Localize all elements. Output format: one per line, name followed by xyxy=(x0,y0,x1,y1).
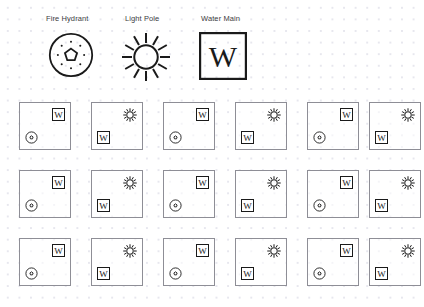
fire-hydrant-icon xyxy=(169,131,182,144)
fire-hydrant-icon xyxy=(25,199,38,212)
symbol-card[interactable]: W xyxy=(307,170,359,218)
light-pole-icon xyxy=(401,244,415,258)
svg-text:W: W xyxy=(342,178,351,188)
light-pole-icon xyxy=(121,32,171,82)
water-main-icon: W xyxy=(52,176,65,189)
svg-text:W: W xyxy=(342,110,351,120)
symbol-card[interactable]: W xyxy=(91,102,143,150)
symbol-card[interactable]: W xyxy=(235,102,287,150)
legend-item-light-pole: Light Pole xyxy=(125,14,159,23)
symbol-card[interactable]: W xyxy=(19,238,71,286)
svg-text:W: W xyxy=(198,246,207,256)
svg-text:W: W xyxy=(243,133,252,143)
light-pole-icon xyxy=(123,244,137,258)
symbol-card[interactable]: W xyxy=(235,170,287,218)
water-main-icon: W xyxy=(241,267,254,280)
svg-text:W: W xyxy=(54,110,63,120)
drawing-canvas: Fire Hydrant Light Pole Water Main W W W… xyxy=(0,0,424,307)
svg-text:W: W xyxy=(99,201,108,211)
legend-item-label: Fire Hydrant xyxy=(46,14,88,23)
water-main-icon: W xyxy=(97,199,110,212)
symbol-card[interactable]: W xyxy=(163,238,215,286)
symbol-card[interactable]: W xyxy=(19,170,71,218)
water-main-icon: W xyxy=(241,131,254,144)
water-main-icon: W xyxy=(241,199,254,212)
light-pole-icon xyxy=(123,108,137,122)
symbol-card[interactable]: W xyxy=(307,102,359,150)
legend-item-fire-hydrant: Fire Hydrant xyxy=(46,14,88,23)
fire-hydrant-icon xyxy=(25,267,38,280)
fire-hydrant-icon xyxy=(48,32,94,78)
legend-item-label: Light Pole xyxy=(125,14,159,23)
symbol-card[interactable]: W xyxy=(369,102,421,150)
water-main-icon: W xyxy=(97,131,110,144)
symbol-card[interactable]: W xyxy=(91,170,143,218)
svg-text:W: W xyxy=(243,201,252,211)
svg-text:W: W xyxy=(54,178,63,188)
water-main-icon: W xyxy=(199,32,247,80)
light-pole-icon xyxy=(123,176,137,190)
svg-text:W: W xyxy=(377,269,386,279)
symbol-card[interactable]: W xyxy=(163,102,215,150)
symbol-card[interactable]: W xyxy=(369,170,421,218)
light-pole-icon xyxy=(267,176,281,190)
legend-item-water-main: Water Main xyxy=(201,14,240,23)
water-main-icon: W xyxy=(340,108,353,121)
fire-hydrant-icon xyxy=(313,199,326,212)
fire-hydrant-icon xyxy=(25,131,38,144)
symbol-card[interactable]: W xyxy=(235,238,287,286)
svg-text:W: W xyxy=(209,40,238,73)
svg-text:W: W xyxy=(198,110,207,120)
svg-text:W: W xyxy=(243,269,252,279)
water-main-icon: W xyxy=(340,244,353,257)
water-main-icon: W xyxy=(196,108,209,121)
fire-hydrant-icon xyxy=(169,267,182,280)
water-main-icon: W xyxy=(97,267,110,280)
svg-text:W: W xyxy=(377,201,386,211)
water-main-icon: W xyxy=(196,244,209,257)
svg-text:W: W xyxy=(198,178,207,188)
water-main-icon: W xyxy=(375,267,388,280)
light-pole-icon xyxy=(401,108,415,122)
svg-text:W: W xyxy=(377,133,386,143)
water-main-icon: W xyxy=(375,131,388,144)
svg-text:W: W xyxy=(342,246,351,256)
symbol-card[interactable]: W xyxy=(307,238,359,286)
light-pole-icon xyxy=(267,244,281,258)
symbol-card[interactable]: W xyxy=(369,238,421,286)
symbol-card[interactable]: W xyxy=(91,238,143,286)
symbol-card[interactable]: W xyxy=(19,102,71,150)
light-pole-icon xyxy=(267,108,281,122)
water-main-icon: W xyxy=(52,108,65,121)
water-main-icon: W xyxy=(52,244,65,257)
svg-text:W: W xyxy=(54,246,63,256)
legend-item-label: Water Main xyxy=(201,14,240,23)
fire-hydrant-icon xyxy=(169,199,182,212)
svg-text:W: W xyxy=(99,133,108,143)
fire-hydrant-icon xyxy=(313,131,326,144)
water-main-icon: W xyxy=(340,176,353,189)
water-main-icon: W xyxy=(375,199,388,212)
light-pole-icon xyxy=(401,176,415,190)
symbol-card[interactable]: W xyxy=(163,170,215,218)
water-main-icon: W xyxy=(196,176,209,189)
fire-hydrant-icon xyxy=(313,267,326,280)
svg-text:W: W xyxy=(99,269,108,279)
